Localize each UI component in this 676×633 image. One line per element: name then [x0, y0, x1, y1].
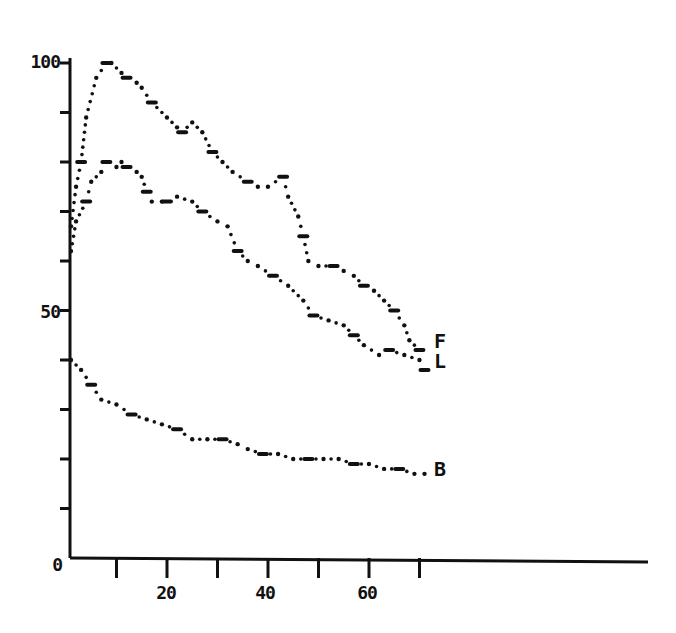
data-point: [301, 298, 305, 302]
data-dot: [107, 400, 111, 404]
data-dash: [232, 249, 244, 253]
data-dot: [207, 144, 211, 148]
data-point: [342, 323, 346, 327]
data-dash: [257, 452, 269, 456]
data-dot: [142, 182, 146, 186]
data-dash: [206, 150, 218, 154]
data-dot: [87, 190, 91, 194]
data-point: [235, 442, 239, 446]
data-dot: [284, 185, 288, 189]
data-dot: [90, 92, 94, 96]
data-dot: [375, 465, 379, 469]
data-point: [276, 452, 280, 456]
data-point: [84, 115, 88, 119]
data-point: [160, 422, 164, 426]
data-dash: [176, 130, 188, 134]
data-dot: [279, 279, 283, 283]
data-point: [74, 219, 78, 223]
data-point: [200, 130, 204, 134]
data-dash: [419, 368, 431, 372]
data-point: [69, 224, 73, 228]
data-dot: [78, 168, 82, 172]
data-dot: [86, 108, 90, 112]
data-point: [352, 274, 356, 278]
data-point: [372, 289, 376, 293]
data-dot: [195, 205, 199, 209]
data-dot: [387, 304, 391, 308]
data-point: [190, 120, 194, 124]
data-point: [407, 338, 411, 342]
data-point: [336, 457, 340, 461]
data-dot: [241, 254, 245, 258]
data-point: [316, 264, 320, 268]
data-dash: [75, 160, 87, 164]
data-dot: [71, 209, 75, 213]
data-dot: [397, 316, 401, 320]
data-dot: [72, 234, 76, 238]
data-dash: [348, 462, 360, 466]
data-point: [362, 343, 366, 347]
data-dash: [196, 210, 208, 214]
data-dot: [347, 329, 351, 333]
data-point: [286, 194, 290, 198]
data-dot: [81, 145, 85, 149]
data-dot: [334, 321, 338, 325]
data-dot: [160, 111, 164, 115]
data-dot: [291, 289, 295, 293]
data-dot: [72, 201, 76, 205]
data-dot: [370, 348, 374, 352]
data-point: [114, 402, 118, 406]
data-dash: [121, 76, 133, 80]
data-dot: [83, 131, 87, 135]
data-point: [286, 284, 290, 288]
data-dot: [80, 153, 84, 157]
data-point: [69, 249, 73, 253]
data-point: [422, 472, 426, 476]
data-dash: [413, 348, 425, 352]
data-point: [74, 185, 78, 189]
data-dot: [170, 121, 174, 125]
data-point: [367, 462, 371, 466]
data-dash: [121, 165, 133, 169]
x-tick-label-20: 20: [146, 584, 186, 602]
data-dash: [358, 284, 370, 288]
data-dot: [94, 390, 98, 394]
x-tick-label-60: 60: [347, 584, 387, 602]
data-dot: [73, 227, 77, 231]
data-point: [79, 368, 83, 372]
data-dot: [153, 420, 157, 424]
data-dot: [226, 165, 230, 169]
data-dash: [267, 274, 279, 278]
data-point: [119, 71, 123, 75]
data-point: [377, 353, 381, 357]
data-dot: [269, 452, 273, 456]
data-dot: [405, 470, 409, 474]
series-label-b: B: [434, 460, 445, 478]
data-dash: [383, 348, 395, 352]
data-dot: [413, 343, 417, 347]
data-point: [99, 170, 103, 174]
data-point: [225, 224, 229, 228]
data-dot: [81, 206, 85, 210]
data-point: [215, 219, 219, 223]
data-point: [205, 437, 209, 441]
data-dot: [115, 66, 119, 70]
data-point: [296, 214, 300, 218]
data-dot: [82, 138, 86, 142]
data-dot: [390, 467, 394, 471]
data-point: [89, 180, 93, 184]
data-dot: [319, 316, 323, 320]
y-tick-label-50: 50: [20, 303, 60, 321]
data-dash: [126, 412, 138, 416]
x-tick-label-40: 40: [245, 584, 285, 602]
data-dot: [344, 460, 348, 464]
data-point: [291, 457, 295, 461]
data-dot: [410, 356, 414, 360]
data-dot: [290, 201, 294, 205]
data-dot: [329, 457, 333, 461]
data-dash: [348, 333, 360, 337]
series-label-f: F: [434, 332, 445, 350]
data-point: [412, 472, 416, 476]
data-point: [220, 160, 224, 164]
data-point: [256, 264, 260, 268]
